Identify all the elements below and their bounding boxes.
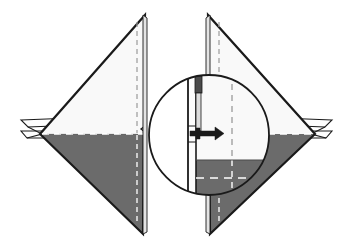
- figure-canvas: [0, 0, 351, 249]
- fold-diagram: [0, 0, 351, 249]
- pin-head-icon: [195, 76, 202, 93]
- left-panel-edge-sliver: [143, 15, 147, 234]
- pin-shaft: [196, 93, 201, 131]
